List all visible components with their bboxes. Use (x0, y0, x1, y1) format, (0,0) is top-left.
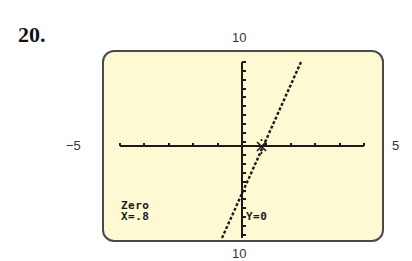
x-readout: X=.8 (121, 211, 150, 222)
y-readout: Y=0 (246, 211, 267, 222)
